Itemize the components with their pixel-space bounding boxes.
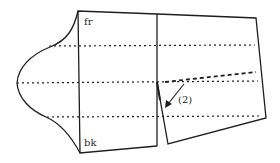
label-step: (2) — [178, 94, 192, 105]
dotted-line-middle — [17, 81, 258, 83]
dotted-line-upper — [49, 45, 255, 46]
sleeve-cap-curve — [17, 11, 80, 153]
label-front: fr — [84, 16, 93, 27]
pattern-diagram: fr bk (2) — [0, 0, 280, 163]
dashed-rotated-line — [165, 72, 256, 82]
right-panel-outline — [157, 14, 266, 144]
label-back: bk — [84, 137, 97, 148]
